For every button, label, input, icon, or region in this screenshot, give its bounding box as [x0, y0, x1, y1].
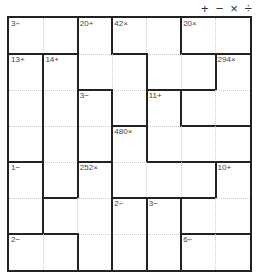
- grid-cell[interactable]: [43, 18, 77, 54]
- cell-divider: [43, 126, 77, 127]
- grid-cell[interactable]: [78, 198, 112, 234]
- cell-divider: [147, 54, 181, 55]
- cage-border: [42, 197, 44, 235]
- cage-label-cell: 6÷: [181, 234, 215, 270]
- grid-cell[interactable]: [78, 126, 112, 162]
- cage-border: [42, 197, 78, 199]
- cage-label: 480×: [114, 127, 132, 136]
- grid-cell[interactable]: [181, 90, 215, 126]
- cage-label-cell: 14+: [43, 54, 77, 90]
- cage-label-cell: 252×: [78, 162, 112, 198]
- cell-divider: [146, 162, 147, 198]
- cage-border: [42, 125, 44, 163]
- cell-divider: [112, 90, 146, 91]
- cage-label-cell: 3−: [78, 90, 112, 126]
- cage-label-cell: 42×: [112, 18, 146, 54]
- cage-label: 294×: [218, 55, 236, 64]
- cage-border: [77, 125, 79, 163]
- cage-border: [180, 197, 216, 199]
- grid-cell[interactable]: [181, 198, 215, 234]
- cage-label-cell: 11+: [147, 90, 181, 126]
- cage-label-cell: 10+: [216, 162, 250, 198]
- grid-cell[interactable]: [78, 54, 112, 90]
- operator-palette: +−×÷: [201, 1, 254, 16]
- grid-cell[interactable]: [9, 126, 43, 162]
- cage-label: 2−: [11, 235, 20, 244]
- cage-label-cell: 1−: [9, 162, 43, 198]
- cage-label-cell: 294×: [216, 54, 250, 90]
- grid-cell[interactable]: [43, 126, 77, 162]
- cage-label: 1−: [11, 163, 20, 172]
- cage-border: [180, 125, 216, 127]
- cage-label-cell: 480×: [112, 126, 146, 162]
- cell-divider: [77, 198, 78, 234]
- grid-cell[interactable]: [147, 54, 181, 90]
- minus-operator[interactable]: −: [216, 1, 226, 16]
- cage-label-cell: 20×: [181, 18, 215, 54]
- cage-border: [146, 161, 182, 163]
- times-operator[interactable]: ×: [230, 1, 240, 16]
- grid-cell[interactable]: [216, 198, 250, 234]
- cage-label-cell: 13+: [9, 54, 43, 90]
- cage-label: 13+: [11, 55, 25, 64]
- cage-label: 3−: [149, 199, 158, 208]
- cage-label: 6÷: [183, 235, 192, 244]
- grid-cell[interactable]: [43, 198, 77, 234]
- cage-label: 20+: [80, 19, 94, 28]
- cell-divider: [43, 162, 77, 163]
- cell-divider: [215, 126, 216, 162]
- grid-cell[interactable]: [112, 162, 146, 198]
- plus-operator[interactable]: +: [201, 1, 211, 16]
- cage-label-cell: 20+: [78, 18, 112, 54]
- grid-cell[interactable]: [216, 18, 250, 54]
- grid-cell[interactable]: [78, 234, 112, 270]
- grid-cell[interactable]: [147, 126, 181, 162]
- cage-border: [42, 89, 44, 127]
- grid-cell[interactable]: [9, 90, 43, 126]
- grid-cell[interactable]: [147, 162, 181, 198]
- grid-cell[interactable]: [112, 234, 146, 270]
- cage-label-cell: 2−: [9, 234, 43, 270]
- grid-cell[interactable]: [43, 90, 77, 126]
- cell-divider: [9, 126, 43, 127]
- cage-border: [215, 125, 251, 127]
- cage-label: 11+: [149, 91, 162, 100]
- cage-label-cell: 2÷: [112, 198, 146, 234]
- cage-border: [42, 233, 78, 235]
- cell-divider: [181, 54, 182, 90]
- cage-label-cell: 3÷: [9, 18, 43, 54]
- cage-border: [146, 233, 148, 271]
- cage-label: 3−: [80, 91, 89, 100]
- divide-operator[interactable]: ÷: [245, 1, 254, 16]
- cage-border: [180, 89, 216, 91]
- grid-cell[interactable]: [181, 162, 215, 198]
- cell-divider: [181, 126, 182, 162]
- cage-label: 3÷: [11, 19, 20, 28]
- cage-label: 42×: [114, 19, 128, 28]
- cage-border: [215, 233, 251, 235]
- cage-label-cell: 3−: [147, 198, 181, 234]
- cage-label: 252×: [80, 163, 98, 172]
- grid-cell[interactable]: [9, 198, 43, 234]
- grid-cell[interactable]: [112, 90, 146, 126]
- grid-cell[interactable]: [43, 162, 77, 198]
- cage-border: [146, 53, 148, 91]
- cage-border: [111, 233, 113, 271]
- grid-cell[interactable]: [181, 126, 215, 162]
- cage-label: 2÷: [114, 199, 123, 208]
- grid-cell[interactable]: [181, 54, 215, 90]
- cage-label: 14+: [45, 55, 59, 64]
- grid-cell[interactable]: [147, 234, 181, 270]
- cage-border: [77, 233, 79, 271]
- cage-label: 10+: [218, 163, 232, 172]
- grid-cell[interactable]: [43, 234, 77, 270]
- grid-cell[interactable]: [112, 54, 146, 90]
- grid-cell[interactable]: [216, 126, 250, 162]
- grid-cell[interactable]: [216, 90, 250, 126]
- grid-cell[interactable]: [216, 234, 250, 270]
- cage-border: [180, 161, 216, 163]
- grid-cell[interactable]: [147, 18, 181, 54]
- cell-divider: [78, 234, 112, 235]
- cage-label: 20×: [183, 19, 197, 28]
- kenken-grid: 3÷20+42×20×13+14+294×3−11+480×1−252×10+2…: [7, 16, 252, 272]
